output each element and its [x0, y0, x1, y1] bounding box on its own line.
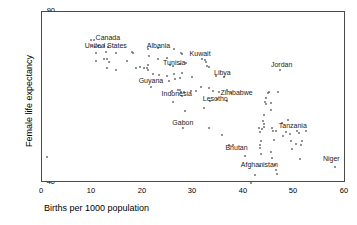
x-tick-label-60: 60 [334, 186, 354, 195]
data-point [250, 182, 252, 184]
point-label: Tanzania [279, 122, 307, 130]
x-tick-label-0: 0 [31, 186, 51, 195]
point-label: Libya [214, 69, 231, 77]
x-tick-label-20: 20 [132, 186, 152, 195]
point-annotations-layer: CanadaUnited StatesAlbaniaKuwaitTunisiaJ… [42, 12, 344, 181]
x-tick-label-30: 30 [182, 186, 202, 195]
point-label: Lesotho [203, 95, 228, 103]
point-label: Canada [96, 34, 121, 42]
point-label: Jordan [271, 61, 292, 69]
y-axis-label: Female life expectancy [24, 26, 34, 176]
point-label: Guyana [139, 77, 164, 85]
point-label: Albania [147, 42, 170, 50]
scatter-plot-figure: 90 80 70 60 50 40 0 10 20 30 40 50 60 Fe… [0, 0, 357, 225]
point-label: Kuwait [190, 50, 211, 58]
x-tick-label-10: 10 [81, 186, 101, 195]
point-label: Bhutan [225, 144, 247, 152]
x-tick-label-50: 50 [283, 186, 303, 195]
x-tick-label-40: 40 [233, 186, 253, 195]
point-label: Afghanistan [241, 161, 278, 169]
point-label: Gabon [172, 119, 193, 127]
point-label: Indonesia [162, 90, 192, 98]
point-label: Niger [323, 155, 340, 163]
point-label: United States [85, 42, 127, 50]
point-label: Tunisia [163, 59, 185, 67]
plot-area: CanadaUnited StatesAlbaniaKuwaitTunisiaJ… [41, 11, 345, 182]
x-tick-60 [0, 24, 1, 27]
x-axis-label: Births per 1000 population [44, 203, 149, 213]
